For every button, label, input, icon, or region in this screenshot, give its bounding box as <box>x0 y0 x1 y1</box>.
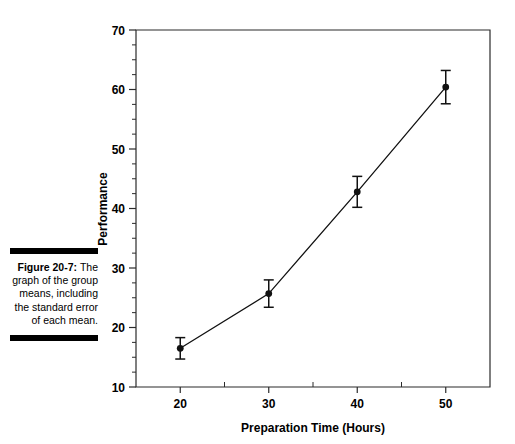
x-tick-label: 50 <box>439 397 453 411</box>
data-point-marker <box>354 188 361 195</box>
y-tick-label: 50 <box>112 143 126 157</box>
line-chart-with-error-bars: 10203040506070 20304050 Performance Prep… <box>0 0 515 444</box>
y-axis: 10203040506070 <box>112 24 136 395</box>
x-tick-label: 40 <box>351 397 365 411</box>
y-tick-label: 60 <box>112 83 126 97</box>
plot-frame <box>136 30 490 387</box>
x-tick-label: 20 <box>174 397 188 411</box>
y-tick-label: 30 <box>112 262 126 276</box>
y-tick-label: 10 <box>112 381 126 395</box>
y-tick-label: 40 <box>112 202 126 216</box>
data-series-group <box>175 70 451 359</box>
y-tick-label: 70 <box>112 24 126 38</box>
data-point-marker <box>442 84 449 91</box>
chart-figure: 10203040506070 20304050 Performance Prep… <box>0 0 515 444</box>
x-tick-label: 30 <box>262 397 276 411</box>
x-axis-title: Preparation Time (Hours) <box>241 421 385 435</box>
data-point-marker <box>265 290 272 297</box>
y-tick-label: 20 <box>112 321 126 335</box>
x-axis: 20304050 <box>174 382 453 411</box>
data-point-marker <box>177 345 184 352</box>
series-line <box>180 87 446 348</box>
y-axis-title: Performance <box>96 172 110 246</box>
